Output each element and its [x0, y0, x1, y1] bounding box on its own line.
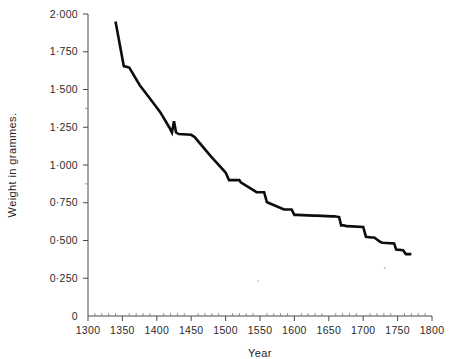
y-axis: 00·2500·5000·7501·0001·2501·5001·7502·00… [50, 8, 88, 322]
paper-speck [384, 267, 386, 269]
y-tick-label: 2·000 [50, 8, 78, 20]
x-tick-label: 1450 [179, 324, 204, 336]
x-tick-label: 1650 [317, 324, 342, 336]
y-tick-label: 1·750 [50, 45, 78, 57]
x-tick-label: 1500 [213, 324, 238, 336]
x-tick-label: 1750 [385, 324, 410, 336]
y-tick-label: 0 [72, 310, 78, 322]
y-tick-label: 1·500 [50, 83, 78, 95]
x-tick-label: 1300 [76, 324, 101, 336]
x-tick-label: 1700 [351, 324, 376, 336]
y-axis-title: Weight in grammes. [6, 113, 18, 218]
chart-container: 00·2500·5000·7501·0001·2501·5001·7502·00… [0, 0, 454, 359]
x-tick-label: 1350 [110, 324, 135, 336]
line-chart: 00·2500·5000·7501·0001·2501·5001·7502·00… [0, 0, 454, 359]
x-tick-label: 1600 [282, 324, 307, 336]
x-tick-label: 1550 [248, 324, 273, 336]
y-tick-label: 0·750 [50, 196, 78, 208]
x-tick-label: 1800 [420, 324, 445, 336]
weight-series-line [116, 22, 412, 255]
x-axis-title: Year [248, 347, 272, 359]
y-tick-label: 1·250 [50, 121, 78, 133]
y-tick-label: 1·000 [50, 159, 78, 171]
y-tick-label: 0·250 [50, 272, 78, 284]
data-series-group [116, 22, 412, 255]
x-tick-label: 1400 [145, 324, 170, 336]
y-tick-label: 0·500 [50, 234, 78, 246]
axis-titles-group: YearWeight in grammes. [6, 113, 272, 359]
paper-speck [257, 280, 259, 282]
x-axis: 1300135014001450150015501600165017001750… [76, 313, 445, 336]
